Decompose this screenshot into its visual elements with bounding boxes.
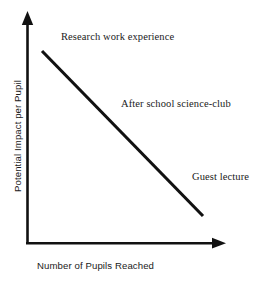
y-axis-title: Potential Impact per Pupil [12, 80, 23, 192]
arrow-up-icon [22, 11, 33, 25]
arrow-right-icon [212, 238, 226, 249]
x-axis-title: Number of Pupils Reached [37, 260, 154, 271]
y-axis-title-wrapper: Potential Impact per Pupil [9, 61, 25, 211]
callout-research-work-experience: Research work experience [61, 31, 174, 42]
impact-vs-reach-chart: Research work experience After school sc… [0, 0, 268, 282]
callout-after-school-science-club: After school science-club [121, 98, 231, 109]
chart-canvas [0, 0, 268, 282]
trend-down-line [42, 51, 203, 216]
callout-guest-lecture: Guest lecture [192, 171, 249, 182]
